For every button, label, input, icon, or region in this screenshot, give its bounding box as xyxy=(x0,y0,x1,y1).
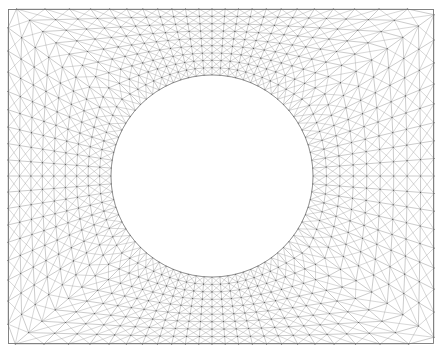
hole-fill xyxy=(111,75,312,276)
hole-boundary-outline xyxy=(111,75,313,277)
mesh-canvas xyxy=(0,0,444,351)
mesh-figure xyxy=(0,0,444,351)
